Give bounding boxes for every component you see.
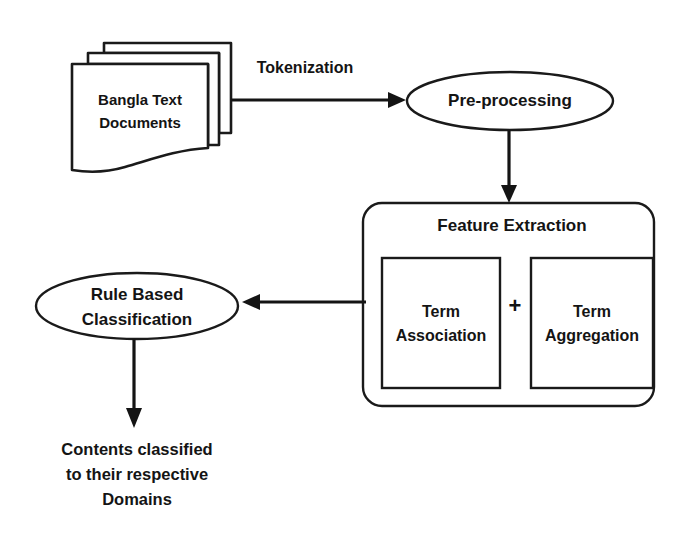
plus-operator: + [509, 293, 522, 318]
edge-preprocessing-arrowhead [501, 185, 517, 203]
term-association-label-line1: Term [422, 303, 460, 320]
node-bangla-text-documents[interactable]: Bangla Text Documents [72, 43, 231, 172]
edge-classification-to-output[interactable] [126, 339, 142, 428]
pre-processing-label: Pre-processing [448, 91, 572, 110]
flowchart-svg: Bangla Text Documents Tokenization Pre-p… [0, 0, 694, 541]
term-aggregation-box [531, 258, 653, 388]
edge-tokenization-arrowhead [388, 92, 406, 108]
output-label-line1: Contents classified [61, 440, 212, 458]
node-pre-processing[interactable]: Pre-processing [407, 72, 613, 130]
edge-output-arrowhead [126, 408, 142, 428]
edge-preprocessing-to-feature-extraction[interactable] [501, 130, 517, 203]
edge-tokenization-label: Tokenization [257, 59, 354, 76]
feature-extraction-label: Feature Extraction [437, 216, 586, 235]
edge-classification-arrowhead [242, 294, 260, 310]
node-feature-extraction[interactable]: Feature Extraction Term Association + Te… [363, 203, 654, 406]
classification-label-line1: Rule Based [91, 285, 184, 304]
node-term-association[interactable]: Term Association [382, 258, 500, 388]
output-label-line3: Domains [102, 490, 172, 508]
node-term-aggregation[interactable]: Term Aggregation [531, 258, 653, 388]
term-association-box [382, 258, 500, 388]
documents-label-line2: Documents [99, 114, 181, 131]
term-association-label-line2: Association [396, 327, 487, 344]
node-output-text: Contents classified to their respective … [61, 440, 212, 508]
diagram-canvas: Bangla Text Documents Tokenization Pre-p… [0, 0, 694, 541]
classification-label-line2: Classification [82, 310, 193, 329]
documents-label-line1: Bangla Text [98, 91, 182, 108]
term-aggregation-label-line1: Term [573, 303, 611, 320]
edge-feature-extraction-to-classification[interactable] [242, 294, 366, 310]
output-label-line2: to their respective [66, 465, 208, 483]
node-rule-based-classification[interactable]: Rule Based Classification [36, 273, 238, 339]
edge-tokenization[interactable]: Tokenization [231, 59, 406, 108]
term-aggregation-label-line2: Aggregation [545, 327, 639, 344]
